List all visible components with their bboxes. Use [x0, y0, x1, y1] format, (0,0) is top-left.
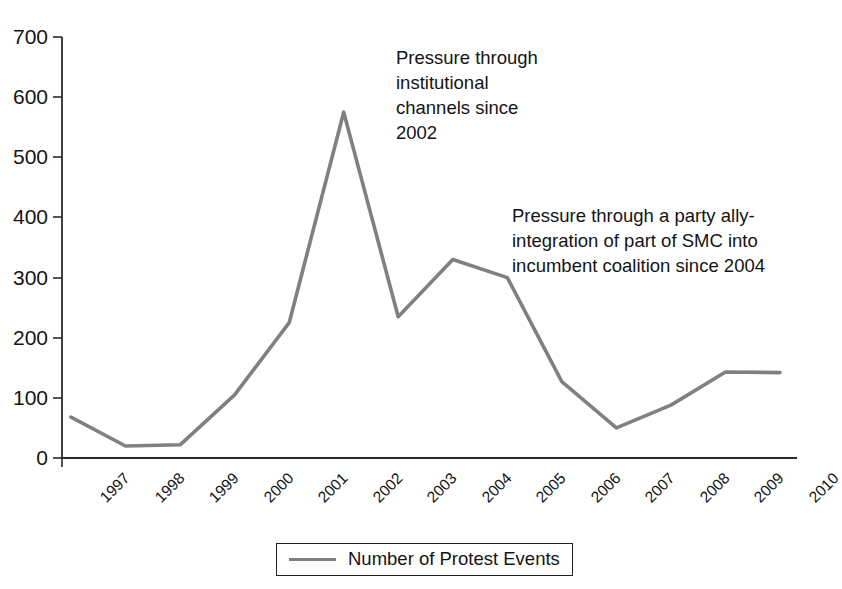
y-tick-label-0: 0 — [0, 447, 48, 468]
y-tick-label-400: 400 — [0, 206, 48, 227]
y-tick-label-300: 300 — [0, 267, 48, 288]
y-tick-label-100: 100 — [0, 387, 48, 408]
legend-line-swatch-icon — [289, 558, 336, 561]
y-tick-label-700: 700 — [0, 26, 48, 47]
y-tick-label-600: 600 — [0, 86, 48, 107]
chart-legend: Number of Protest Events — [276, 543, 573, 576]
y-axis-ticks — [53, 37, 62, 458]
annotation-institutional-channels: Pressure through institutional channels … — [396, 45, 606, 145]
annotation-party-ally: Pressure through a party ally- integrati… — [512, 203, 822, 278]
y-tick-label-200: 200 — [0, 327, 48, 348]
y-tick-label-500: 500 — [0, 146, 48, 167]
series-line-number-of-protest-events — [71, 112, 780, 446]
legend-label: Number of Protest Events — [348, 549, 560, 569]
